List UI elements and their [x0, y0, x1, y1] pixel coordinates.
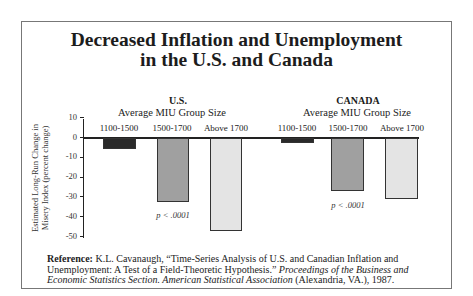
bar-canada-above-1700 [385, 138, 418, 199]
group-title-us: U.S. [169, 95, 187, 106]
y-tick-label: 10 [57, 112, 77, 122]
p-value-canada-text: p < .0001 [331, 200, 364, 210]
p-value-canada: p < .0001 [331, 200, 364, 210]
y-tick-label: 0 [57, 132, 77, 142]
y-tick-label: -10 [57, 151, 77, 161]
bar-us-above-1700 [210, 138, 242, 231]
y-axis-label: Estimated Long-Run Change in Misery Inde… [30, 124, 50, 232]
bar-us-1500-1700 [157, 138, 189, 202]
category-label-us-1500-1700: 1500-1700 [153, 123, 192, 133]
bar-canada-1500-1700 [331, 138, 364, 191]
category-label-us-1100-1500: 1100-1500 [100, 123, 139, 133]
reference-label: Reference: [47, 253, 93, 264]
group-title-canada: CANADA [336, 95, 379, 106]
chart-title: Decreased Inflation and Unemployment in … [0, 30, 473, 70]
y-tick-mark [80, 216, 84, 217]
p-value-us: p < .0001 [156, 210, 189, 220]
category-label-canada-above-1700: Above 1700 [380, 123, 424, 133]
y-tick-mark [80, 177, 84, 178]
y-tick-mark [80, 117, 84, 118]
y-tick-label: -30 [57, 191, 77, 201]
y-tick-label: -20 [57, 171, 77, 181]
category-label-canada-1100-1500: 1100-1500 [278, 123, 317, 133]
reference-location: (Alexandria, VA.), 1987. [293, 274, 395, 285]
y-tick-label: -50 [57, 231, 77, 241]
group-subtitle-us: Average MIU Group Size [118, 107, 226, 118]
y-tick-label: -40 [57, 211, 77, 221]
bar-canada-1100-1500 [281, 138, 314, 144]
p-value-us-text: p < .0001 [156, 210, 189, 220]
y-tick-mark [80, 236, 84, 237]
y-tick-mark [80, 157, 84, 158]
title-line-1: Decreased Inflation and Unemployment [0, 30, 473, 50]
title-line-2: in the U.S. and Canada [0, 50, 473, 70]
category-label-canada-1500-1700: 1500-1700 [329, 123, 368, 133]
y-axis-label-line-2: Misery Index (percent change) [40, 124, 50, 232]
bar-us-1100-1500 [103, 138, 136, 150]
category-label-us-above-1700: Above 1700 [204, 123, 248, 133]
y-axis-label-line-1: Estimated Long-Run Change in [30, 124, 40, 232]
y-tick-mark [80, 196, 84, 197]
group-subtitle-canada: Average MIU Group Size [303, 107, 411, 118]
reference-note: Reference: K.L. Cavanaugh, “Time-Series … [47, 254, 442, 286]
